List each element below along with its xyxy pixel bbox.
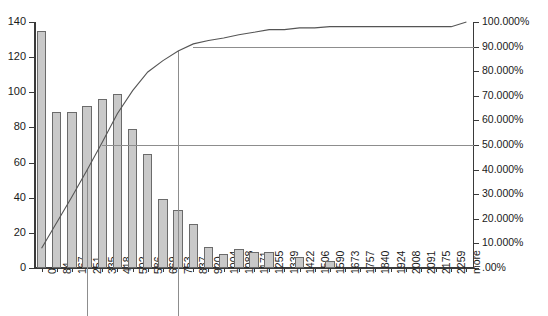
cumulative-line-layer xyxy=(0,0,548,316)
cumulative-percentage-line xyxy=(42,22,467,248)
pareto-chart: 020406080100120140 .00%10.000%20.000%30.… xyxy=(0,0,548,316)
